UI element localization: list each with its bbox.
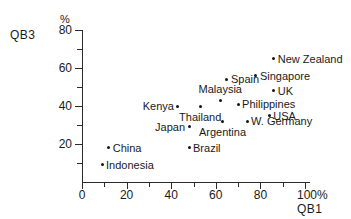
data-point-brazil[interactable] [188, 146, 191, 149]
x-minor-tick-70 [238, 183, 239, 187]
y-tick-label-20: 20 [42, 138, 72, 150]
data-label-kenya: Kenya [0, 101, 174, 112]
data-label-singapore: Singapore [260, 71, 310, 82]
data-point-thailand[interactable] [199, 105, 202, 108]
x-minor-tick-10 [104, 183, 105, 187]
data-point-malaysia[interactable] [219, 99, 222, 102]
data-label-brazil: Brazil [193, 143, 221, 154]
data-point-w-germany[interactable] [246, 120, 249, 123]
data-point-uk[interactable] [272, 89, 275, 92]
data-point-argentina[interactable] [221, 120, 224, 123]
data-point-indonesia[interactable] [101, 163, 104, 166]
data-label-w-germany: W. Germany [251, 116, 312, 127]
y-tick-80 [75, 30, 82, 31]
data-point-china[interactable] [107, 146, 110, 149]
data-label-indonesia: Indonesia [106, 160, 154, 171]
y-tick-label-60: 60 [42, 62, 72, 74]
y-minor-tick-70 [77, 49, 82, 50]
x-minor-tick-30 [149, 183, 150, 187]
data-label-china: China [113, 143, 142, 154]
data-label-argentina: Argentina [182, 127, 262, 138]
x-tick-label-80: 80 [240, 189, 280, 201]
x-tick-label-100: 100% [297, 189, 345, 201]
data-point-new-zealand[interactable] [272, 57, 275, 60]
data-label-philippines: Philippines [242, 99, 295, 110]
y-axis-title: QB3 [10, 29, 36, 41]
y-tick-60 [75, 68, 82, 69]
x-tick-label-0: 0 [62, 189, 102, 201]
x-tick-label-40: 40 [151, 189, 191, 201]
y-tick-20 [75, 144, 82, 145]
y-minor-tick-50 [77, 87, 82, 88]
scatter-chart: QB3 % 020406080100%20406080 New ZealandS… [0, 0, 351, 219]
y-minor-tick-10 [77, 163, 82, 164]
x-minor-tick-90 [283, 183, 284, 187]
x-axis-title: QB1 [297, 203, 323, 215]
x-tick-label-20: 20 [107, 189, 147, 201]
data-label-uk: UK [278, 86, 293, 97]
data-label-malaysia: Malaysia [180, 84, 260, 95]
x-minor-tick-50 [194, 183, 195, 187]
x-axis-line [82, 182, 310, 183]
data-point-kenya[interactable] [176, 105, 179, 108]
x-tick-label-60: 60 [196, 189, 236, 201]
data-point-spain[interactable] [225, 78, 228, 81]
data-label-new-zealand: New Zealand [278, 54, 343, 65]
data-point-philippines[interactable] [237, 103, 240, 106]
y-tick-label-80: 80 [42, 24, 72, 36]
data-label-japan: Japan [0, 122, 185, 133]
